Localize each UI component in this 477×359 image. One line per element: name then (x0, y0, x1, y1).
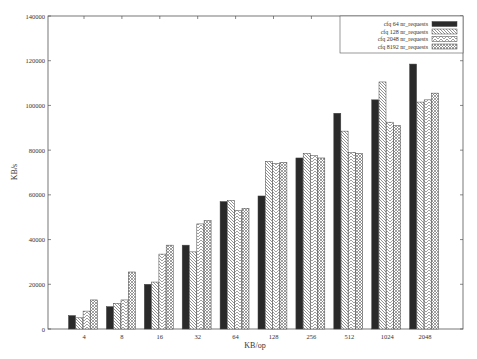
legend-swatch (432, 37, 457, 42)
bar (106, 307, 113, 329)
bar-chart: 020000400006000080000100000120000140000 … (0, 0, 477, 359)
bar (372, 100, 379, 329)
y-tick-label: 100000 (26, 102, 46, 109)
bar (296, 158, 303, 329)
bar (144, 284, 151, 329)
bar-group (334, 113, 363, 329)
bar (410, 64, 417, 329)
legend-swatch (432, 22, 457, 27)
bar-group (220, 200, 249, 329)
bar (128, 272, 135, 329)
bar (204, 221, 211, 329)
bar-group (296, 153, 325, 329)
bar (379, 82, 386, 329)
legend-label: cfq 128 nr_requests (381, 29, 429, 35)
bar (90, 300, 97, 329)
bar (166, 245, 173, 329)
bar-group (144, 245, 173, 329)
bar (76, 318, 83, 329)
y-tick-label: 80000 (29, 147, 45, 154)
y-tick-label: 140000 (26, 13, 46, 20)
bar (121, 300, 128, 329)
x-tick-label: 256 (307, 333, 318, 340)
legend-swatch (432, 44, 457, 49)
y-tick-label: 40000 (29, 236, 45, 243)
x-tick-label: 2048 (419, 333, 432, 340)
bar (265, 161, 272, 329)
bar (356, 153, 363, 329)
bar (394, 126, 401, 329)
bar-group (69, 300, 98, 329)
bar-group (182, 221, 211, 329)
x-tick-label: 16 (157, 333, 164, 340)
bar-groups (69, 64, 439, 329)
bar (258, 196, 265, 329)
bar (334, 113, 341, 329)
bar (417, 102, 424, 329)
y-tick-label: 20000 (29, 281, 45, 288)
bar (303, 153, 310, 329)
bar (227, 200, 234, 329)
bar (220, 202, 227, 329)
bar (114, 303, 121, 329)
x-tick-label: 4 (82, 333, 86, 340)
bar (318, 158, 325, 329)
bar-group (410, 64, 439, 329)
y-tick-label: 60000 (29, 191, 45, 198)
x-tick-label: 128 (269, 333, 279, 340)
bar (197, 224, 204, 329)
bar (83, 311, 90, 329)
bar (273, 164, 280, 329)
bar (190, 252, 197, 329)
bar (341, 131, 348, 329)
legend-label: cfq 8192 nr_requests (378, 44, 429, 50)
legend-swatch (432, 29, 457, 34)
x-tick-label: 32 (194, 333, 201, 340)
bar (159, 254, 166, 329)
x-tick-label: 8 (120, 333, 123, 340)
bar (348, 152, 355, 329)
bar (152, 282, 159, 329)
bar (235, 211, 242, 329)
x-axis-label: KB/op (244, 341, 265, 350)
bar (242, 208, 249, 329)
y-tick-label: 0 (42, 326, 45, 333)
legend-label: cfq 64 nr_requests (384, 21, 429, 27)
legend-label: cfq 2048 nr_requests (378, 36, 429, 42)
bar-group (106, 272, 135, 329)
bar (386, 122, 393, 329)
bar (69, 316, 76, 329)
bar (280, 162, 287, 329)
bar (311, 156, 318, 329)
bar (182, 245, 189, 329)
y-tick-label: 120000 (26, 57, 46, 64)
x-tick-label: 64 (232, 333, 239, 340)
legend: cfq 64 nr_requestscfq 128 nr_requestscfq… (340, 16, 463, 53)
bar (424, 100, 431, 329)
bar-group (258, 161, 287, 329)
y-axis-label: KB/s (10, 164, 19, 180)
x-tick-label: 512 (344, 333, 354, 340)
x-tick-label: 1024 (381, 333, 395, 340)
bar-group (372, 82, 401, 329)
bar (432, 93, 439, 329)
